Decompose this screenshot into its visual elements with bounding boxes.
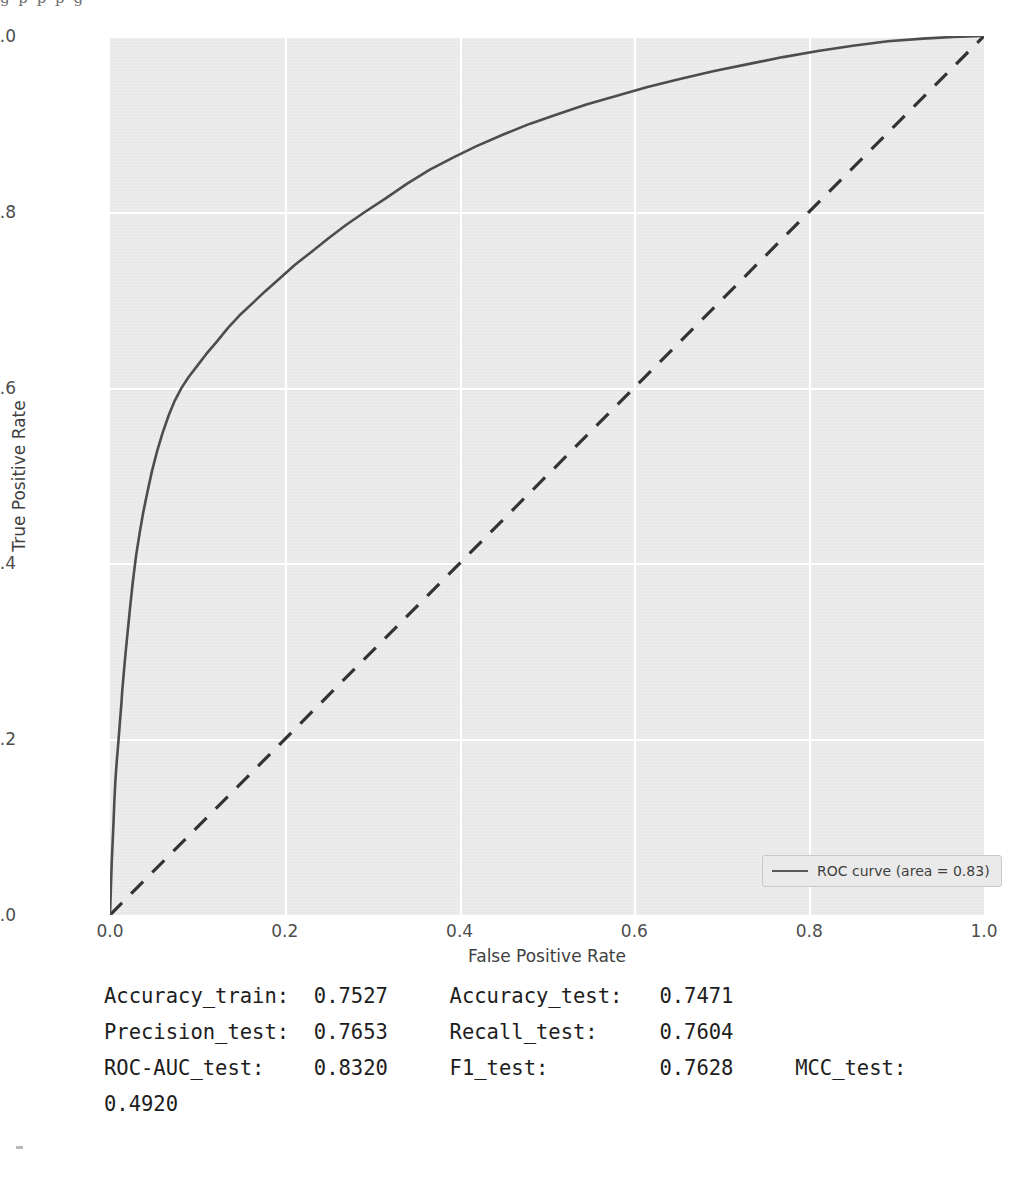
roc-curve-svg [110,36,984,915]
y-axis-label-text: True Positive Rate [9,400,29,551]
x-tick-label: 0.2 [250,921,320,941]
x-tick-label: 0.0 [75,921,145,941]
x-tick-label: 0.8 [774,921,844,941]
gridline-vertical [984,36,986,915]
x-tick-label: 0.4 [425,921,495,941]
x-axis-label: False Positive Rate [110,946,984,966]
plot-area [110,36,984,915]
y-axis-label: True Positive Rate [6,36,32,915]
chance-diagonal-line [110,36,984,915]
roc-curve-figure: 0.00.20.40.60.81.0 0.00.20.40.60.81.0 Fa… [0,0,1030,960]
page-artifact-speck [16,1146,23,1149]
x-tick-label: 1.0 [949,921,1019,941]
legend-label: ROC curve (area = 0.83) [817,863,990,879]
legend-line-swatch [772,870,808,872]
x-tick-label: 0.6 [599,921,669,941]
metrics-summary: Accuracy_train: 0.7527 Accuracy_test: 0.… [104,978,964,1122]
chart-legend: ROC curve (area = 0.83) [762,855,1002,887]
